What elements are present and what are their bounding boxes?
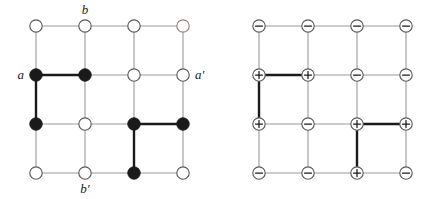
left-lattice-svg: baa′b′ bbox=[0, 0, 222, 199]
lattice-node-open bbox=[79, 20, 91, 32]
lattice-label-2: a bbox=[18, 67, 25, 82]
lattice-node-filled bbox=[177, 118, 189, 130]
lattice-node-open bbox=[30, 167, 42, 179]
left-labels: baa′b′ bbox=[18, 2, 205, 196]
lattice-node-filled bbox=[79, 69, 91, 81]
right-nodes: −−−−++−−+−++−−+− bbox=[253, 20, 412, 179]
lattice-node-open bbox=[177, 69, 189, 81]
lattice-node-filled bbox=[30, 69, 42, 81]
lattice-label-3: a′ bbox=[195, 67, 205, 82]
lattice-node-filled bbox=[128, 167, 140, 179]
lattice-node-filled bbox=[30, 118, 42, 130]
lattice-node-open bbox=[79, 167, 91, 179]
lattice-label-1: b bbox=[82, 2, 89, 17]
lattice-node-open bbox=[128, 69, 140, 81]
right-lattice-panel: −−−−++−−+−++−−+− bbox=[222, 0, 445, 199]
left-grid-lines bbox=[36, 26, 183, 173]
lattice-label-4: b′ bbox=[80, 181, 90, 196]
lattice-node-filled bbox=[128, 118, 140, 130]
right-grid-lines bbox=[259, 26, 406, 173]
right-lattice-svg: −−−−++−−+−++−−+− bbox=[222, 0, 445, 199]
left-lattice-panel: baa′b′ bbox=[0, 0, 222, 199]
lattice-node-open bbox=[177, 167, 189, 179]
lattice-figure: baa′b′ −−−−++−−+−++−−+− bbox=[0, 0, 445, 199]
lattice-node-open bbox=[30, 20, 42, 32]
lattice-node-open bbox=[128, 20, 140, 32]
left-nodes bbox=[30, 20, 189, 179]
lattice-node-open bbox=[79, 118, 91, 130]
lattice-node-open bbox=[177, 20, 189, 32]
